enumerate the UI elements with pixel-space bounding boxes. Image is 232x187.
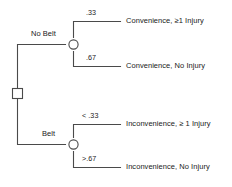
outcome-label-convenience-no-injury: Convenience, No Injury	[126, 62, 205, 70]
outcome-label-inconvenience-no-injury: Inconvenience, No Injury	[126, 163, 210, 171]
decision-tree-diagram: No Belt Belt .33 .67 < .33 >.67 Convenie…	[0, 0, 232, 187]
chance-node-belt-circle	[69, 140, 78, 149]
edge-belt-injury	[74, 125, 121, 138]
edge-root-to-no-belt	[18, 45, 66, 94]
probability-label-no-belt-injury: .33	[86, 9, 96, 16]
branch-label-belt: Belt	[42, 130, 55, 138]
edge-no-belt-no-injury	[74, 52, 121, 67]
outcome-label-inconvenience-injury: Inconvenience, ≥ 1 Injury	[126, 120, 211, 128]
branch-label-no-belt: No Belt	[31, 30, 56, 38]
edge-belt-no-injury	[74, 152, 121, 168]
edge-no-belt-injury	[74, 22, 121, 38]
probability-label-belt-no-injury: >.67	[82, 155, 96, 162]
root-decision-node-square	[13, 89, 23, 99]
probability-label-no-belt-no-injury: .67	[86, 54, 96, 61]
probability-label-belt-injury: < .33	[82, 112, 98, 119]
chance-node-no-belt-circle	[69, 40, 78, 49]
outcome-label-convenience-injury: Convenience, ≥1 Injury	[126, 17, 204, 25]
